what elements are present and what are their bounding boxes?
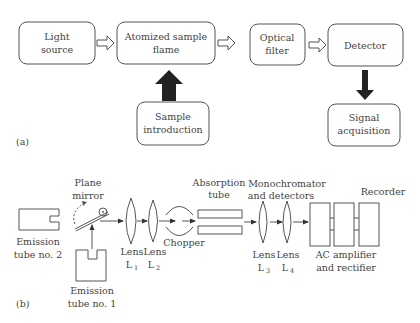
open-arrow-icon (97, 36, 114, 50)
recorder-label: Recorder (361, 186, 406, 197)
monochromator-box (310, 203, 330, 246)
recorder-box (359, 203, 379, 246)
lens-l2-symbol: L (148, 259, 155, 270)
signal-acquisition-box: Signal acquisition (328, 104, 400, 146)
lens-l4-icon (283, 201, 291, 243)
optical-filter-label-line2: filter (265, 45, 289, 56)
absorption-tube-label-line1: Absorption (192, 177, 246, 188)
ac-amplifier-label-line2: and rectifier (316, 262, 376, 273)
lens-l3-icon (259, 201, 267, 243)
absorption-tube-shape (198, 210, 242, 234)
atomized-sample-flame-box: Atomized sample flame (117, 22, 215, 64)
lens-l2-icon (149, 200, 158, 242)
spectrometer-diagram: Light source Atomized sample flame Optic… (0, 0, 420, 323)
signal-acquisition-label-line2: acquisition (338, 125, 391, 136)
open-arrow-icon (309, 38, 326, 52)
optical-filter-box: Optical filter (250, 24, 305, 65)
lens-l3-symbol: L (258, 262, 265, 273)
sample-introduction-box: Sample introduction (137, 102, 209, 145)
emission-tube-2-shape (19, 209, 59, 230)
light-source-label-line1: Light (44, 31, 70, 42)
plane-mirror-label-line2: mirror (72, 190, 104, 201)
sample-introduction-label-line1: Sample (155, 111, 191, 122)
emission-tube-1-label-line2: tube no. 1 (68, 298, 116, 309)
part-a-block-diagram: Light source Atomized sample flame Optic… (16, 22, 403, 147)
optical-filter-label-line1: Optical (260, 32, 295, 43)
emission-tube-2-label-line1: Emission (16, 236, 60, 247)
monochromator-label-line1: Monochromator (248, 178, 326, 189)
part-b-optical-diagram: Plane mirror Emission tube no. 2 Emissio… (14, 177, 406, 309)
chopper-label: Chopper (163, 237, 205, 248)
lens-l4-subscript: 4 (290, 267, 294, 275)
emission-tube-1-label-line1: Emission (70, 285, 114, 296)
ac-amplifier-box (334, 203, 354, 246)
lens-l1-symbol: L (126, 259, 133, 270)
lens-l3-subscript: 3 (266, 267, 270, 275)
lens-l1-icon (126, 198, 136, 244)
emission-tube-2-label-line2: tube no. 2 (14, 249, 62, 260)
lens-l4-symbol: L (282, 262, 289, 273)
lens-l4-name: Lens (277, 249, 300, 260)
sample-introduction-label-line2: introduction (143, 124, 202, 135)
atomized-flame-label-line2: flame (153, 44, 180, 55)
detector-box: Detector (328, 24, 403, 66)
detector-chain-shape (310, 203, 379, 246)
lens-l1-subscript: 1 (134, 264, 138, 272)
solid-down-arrow-icon (356, 70, 374, 100)
lens-l2-subscript: 2 (156, 264, 160, 272)
emission-tube-1-shape (76, 250, 106, 281)
monochromator-label-line2: and detectors (248, 190, 314, 201)
part-b-label: (b) (16, 298, 30, 309)
solid-up-arrow-icon (155, 70, 183, 101)
plane-mirror-label-line1: Plane (75, 177, 102, 188)
atomized-flame-label-line1: Atomized sample (124, 31, 208, 42)
absorption-tube-label-line2: tube (208, 189, 230, 200)
lens-l3-name: Lens (253, 249, 276, 260)
part-a-label: (a) (16, 136, 29, 147)
light-source-label-line2: source (41, 44, 74, 55)
detector-label: Detector (344, 40, 387, 51)
plane-mirror-icon (74, 201, 109, 231)
signal-acquisition-label-line1: Signal (349, 112, 379, 123)
lens-l1-name: Lens (121, 246, 144, 257)
light-source-box: Light source (19, 22, 95, 64)
open-arrow-icon (218, 36, 235, 50)
ac-amplifier-label-line1: AC amplifier (315, 249, 377, 260)
